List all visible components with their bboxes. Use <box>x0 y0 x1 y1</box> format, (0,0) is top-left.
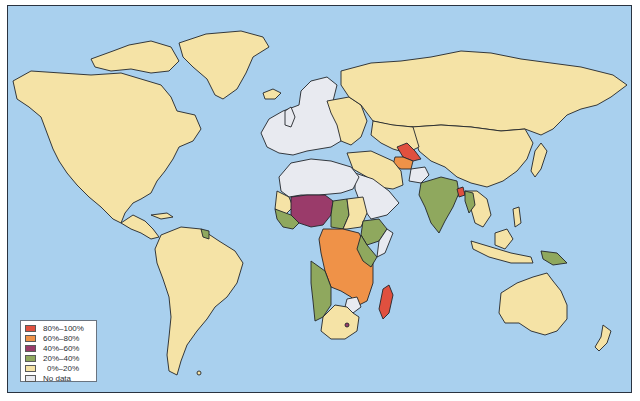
arctic-islands <box>91 41 179 73</box>
swatch-40-60 <box>25 345 36 352</box>
north-africa <box>279 159 359 197</box>
legend-label: 40%–60% <box>43 344 79 353</box>
north-america <box>13 71 201 223</box>
legend-label: 60%–80% <box>43 334 79 343</box>
greenland <box>179 31 269 99</box>
map-legend: 80%–100% 60%–80% 40%–60% 20%–40% 0%–20% … <box>20 320 97 382</box>
legend-label: 0%–20% <box>43 364 79 373</box>
japan <box>531 143 547 177</box>
legend-label: No data <box>43 374 71 383</box>
island <box>197 371 201 375</box>
legend-item-no-data: No data <box>25 373 92 382</box>
russia <box>341 51 627 135</box>
central-america <box>121 215 159 239</box>
south-america <box>155 227 243 375</box>
philippines <box>513 207 521 227</box>
china-mongolia <box>411 125 533 187</box>
iceland <box>263 89 281 99</box>
caribbean <box>151 213 173 219</box>
world-map <box>7 5 632 393</box>
legend-item-60-80: 60%–80% <box>25 334 92 343</box>
swatch-no-data <box>25 375 36 382</box>
lesotho <box>345 323 349 327</box>
swatch-0-20 <box>25 365 36 372</box>
papua-new-guinea <box>541 251 567 265</box>
india <box>419 177 459 233</box>
legend-item-80-100: 80%–100% <box>25 324 92 333</box>
swatch-20-40 <box>25 355 36 362</box>
madagascar <box>379 285 393 319</box>
new-zealand <box>595 325 611 351</box>
legend-label: 80%–100% <box>43 324 84 333</box>
legend-item-20-40: 20%–40% <box>25 354 92 363</box>
borneo <box>495 229 513 249</box>
legend-item-0-20: 0%–20% <box>25 364 92 373</box>
legend-label: 20%–40% <box>43 354 79 363</box>
swatch-60-80 <box>25 335 36 342</box>
australia <box>499 273 567 335</box>
afghanistan <box>409 167 429 183</box>
legend-item-40-60: 40%–60% <box>25 344 92 353</box>
swatch-80-100 <box>25 325 36 332</box>
bangladesh <box>457 187 465 197</box>
map-canvas <box>8 6 632 393</box>
